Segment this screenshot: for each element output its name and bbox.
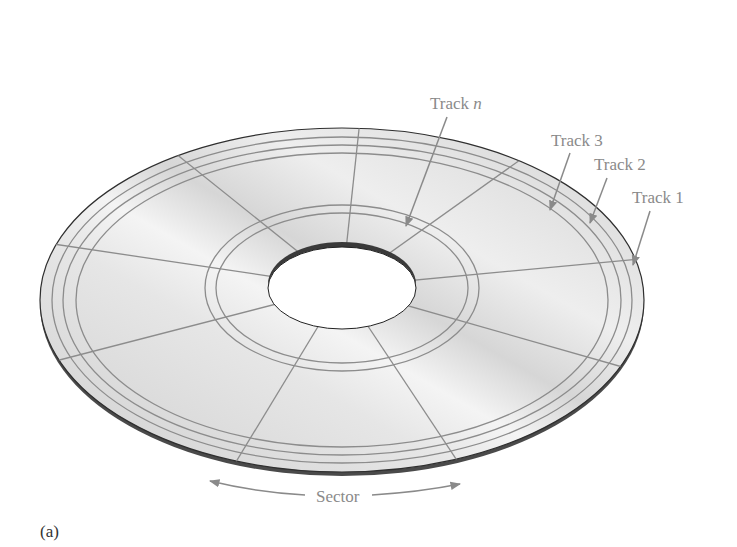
track-3-label: Track 3 [551,132,603,149]
sector-arrow-left [210,481,305,495]
track-n-label: Track n [430,95,482,112]
center-hole [268,247,416,329]
panel-label: (a) [40,523,59,540]
track-2-label: Track 2 [594,156,646,173]
track-1-label: Track 1 [632,189,684,206]
sector-arrow-right [372,484,460,495]
track-1-arrow [633,211,650,265]
sector-label: Sector [313,488,362,505]
disk-diagram [0,0,737,547]
